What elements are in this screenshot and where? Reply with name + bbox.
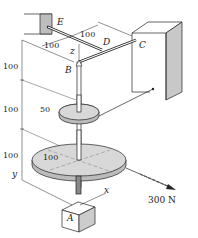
dim-ed: 100 (44, 41, 59, 50)
label-300n: 300 N (148, 195, 176, 205)
dim-vertical-top: 100 (3, 62, 18, 71)
axis-y: y (11, 169, 18, 179)
dim-small-radius: 50 (40, 105, 50, 114)
label-e: E (56, 17, 64, 27)
left-bracket-e (24, 14, 52, 34)
axes (22, 180, 106, 205)
top-dimensions (22, 22, 132, 62)
label-c: C (139, 40, 146, 50)
force-arrow-300n (140, 174, 176, 190)
shaft-pulley-diagram: E D C B A z y x 100 100 100 100 100 50 1… (0, 0, 198, 238)
dim-vertical-bottom: 100 (3, 151, 18, 160)
label-b: B (64, 65, 72, 75)
lower-shaft (76, 176, 81, 194)
small-pulley (59, 88, 154, 124)
dim-vertical-mid: 100 (3, 105, 18, 114)
axis-z: z (69, 46, 75, 56)
label-a: A (66, 213, 74, 223)
dim-dc: 100 (80, 30, 95, 39)
axis-x: x (104, 185, 109, 195)
right-wall-block (132, 22, 182, 100)
dim-large-radius: 100 (43, 153, 58, 162)
label-d: D (102, 37, 110, 47)
